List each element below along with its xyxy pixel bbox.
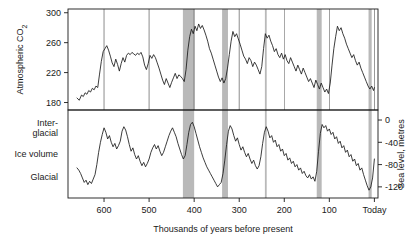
co2-y-tick-label: 260 bbox=[46, 38, 61, 48]
x-tick-label: 100 bbox=[322, 205, 337, 215]
co2-y-tick-label: 220 bbox=[46, 68, 61, 78]
chart-canvas: 300260220180Atmospheric CO2Inter-glacial… bbox=[0, 0, 411, 240]
co2-y-tick-label: 180 bbox=[46, 98, 61, 108]
interglacial-band bbox=[222, 9, 228, 198]
co2-axis-title: Atmospheric CO2 bbox=[15, 24, 28, 94]
x-tick-label: 300 bbox=[232, 205, 247, 215]
x-tick-label: 400 bbox=[187, 205, 202, 215]
x-tick-label: 600 bbox=[97, 205, 112, 215]
ice-volume-label: Ice volume bbox=[14, 149, 58, 159]
interglacial-band bbox=[369, 9, 372, 198]
interglacial-label-line2: glacial bbox=[32, 128, 58, 138]
x-axis-title: Thousands of years before present bbox=[153, 224, 293, 234]
sea-level-axis-title: Sea level, metres bbox=[396, 119, 406, 189]
interglacial-bands bbox=[183, 9, 372, 198]
x-tick-label: 200 bbox=[277, 205, 292, 215]
glacial-label: Glacial bbox=[30, 172, 58, 182]
co2-y-tick-label: 300 bbox=[46, 8, 61, 18]
x-tick-label: Today bbox=[362, 205, 387, 215]
interglacial-band bbox=[183, 9, 194, 198]
axis-labels: 300260220180Atmospheric CO2Inter-glacial… bbox=[14, 8, 406, 234]
interglacial-band bbox=[317, 9, 322, 198]
interglacial-label-line1: Inter- bbox=[37, 118, 58, 128]
x-tick-label: 500 bbox=[142, 205, 157, 215]
climate-chart-figure: 300260220180Atmospheric CO2Inter-glacial… bbox=[0, 0, 411, 240]
sea-level-y-tick-label: 0 bbox=[385, 115, 390, 125]
